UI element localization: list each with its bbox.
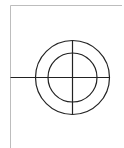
background [0, 0, 124, 148]
crosshair-diagram [0, 0, 124, 148]
